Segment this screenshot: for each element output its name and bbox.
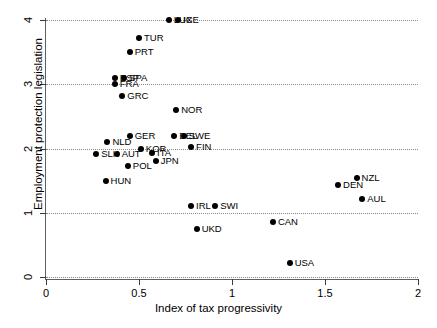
data-point-label-prt: PRT <box>135 47 154 57</box>
gridline-y-4 <box>46 20 418 21</box>
x-tick-1.5 <box>325 279 326 285</box>
data-point-aul <box>359 196 365 202</box>
data-point-usa <box>287 260 293 266</box>
y-tick-label-0: 0 <box>23 269 34 285</box>
scatter-chart: 01234 00.511.52 LUXICETURPRTESPSPAFRAGRC… <box>0 0 437 328</box>
data-point-label-grc: GRC <box>127 91 148 101</box>
data-point-label-ukd: UKD <box>202 224 222 234</box>
data-point-ukd <box>194 226 200 232</box>
data-point-pol <box>125 163 131 169</box>
data-point-slk <box>93 151 99 157</box>
data-point-can <box>270 219 276 225</box>
data-point-label-hun: HUN <box>111 176 132 186</box>
data-point-label-jpn: JPN <box>161 156 179 166</box>
data-point-fra <box>112 81 118 87</box>
data-point-aut <box>114 151 120 157</box>
data-point-irl <box>188 203 194 209</box>
x-tick-1 <box>232 279 233 285</box>
gridline-y-3 <box>46 84 418 85</box>
data-point-esp <box>112 75 118 81</box>
data-point-label-fra: FRA <box>120 79 139 89</box>
plot-area: LUXICETURPRTESPSPAFRAGRCNORGERBELSWENLDK… <box>46 20 418 277</box>
x-tick-label-0: 0 <box>31 287 61 299</box>
data-point-label-usa: USA <box>295 258 315 268</box>
data-point-label-irl: IRL <box>196 201 211 211</box>
data-point-prt <box>127 49 133 55</box>
data-point-swi <box>212 203 218 209</box>
x-tick-0 <box>46 279 47 285</box>
data-point-label-pol: POL <box>133 161 152 171</box>
gridline-y-1 <box>46 213 418 214</box>
data-point-label-aut: AUT <box>122 149 141 159</box>
data-point-label-swi: SWI <box>220 201 238 211</box>
x-tick-label-1: 1 <box>217 287 247 299</box>
data-point-label-swe: SWE <box>189 131 211 141</box>
data-point-jpn <box>153 158 159 164</box>
data-point-nld <box>104 139 110 145</box>
data-point-label-nor: NOR <box>181 105 202 115</box>
x-tick-label-2: 2 <box>403 287 433 299</box>
data-point-label-ice: ICE <box>183 15 199 25</box>
data-point-lux <box>166 17 172 23</box>
data-point-label-den: DEN <box>343 180 363 190</box>
x-tick-2 <box>418 279 419 285</box>
data-point-label-ger: GER <box>135 131 156 141</box>
x-tick-label-1.5: 1.5 <box>310 287 340 299</box>
data-point-nor <box>173 107 179 113</box>
gridline-y-0 <box>46 277 418 278</box>
x-tick-0.5 <box>139 279 140 285</box>
data-point-swe <box>181 133 187 139</box>
data-point-label-fin: FIN <box>196 142 211 152</box>
data-point-label-nld: NLD <box>112 137 131 147</box>
data-point-tur <box>136 35 142 41</box>
data-point-label-tur: TUR <box>144 33 164 43</box>
data-point-ita <box>149 150 155 156</box>
x-axis-title: Index of tax progressivity <box>0 302 437 314</box>
data-point-label-can: CAN <box>278 217 298 227</box>
data-point-ice <box>175 17 181 23</box>
data-point-grc <box>119 93 125 99</box>
data-point-label-nzl: NZL <box>362 173 380 183</box>
y-axis-title: Employment protection legislation <box>32 4 44 244</box>
data-point-bel <box>171 133 177 139</box>
data-point-label-aul: AUL <box>367 194 385 204</box>
data-point-hun <box>103 178 109 184</box>
data-point-den <box>335 182 341 188</box>
x-tick-label-0.5: 0.5 <box>124 287 154 299</box>
